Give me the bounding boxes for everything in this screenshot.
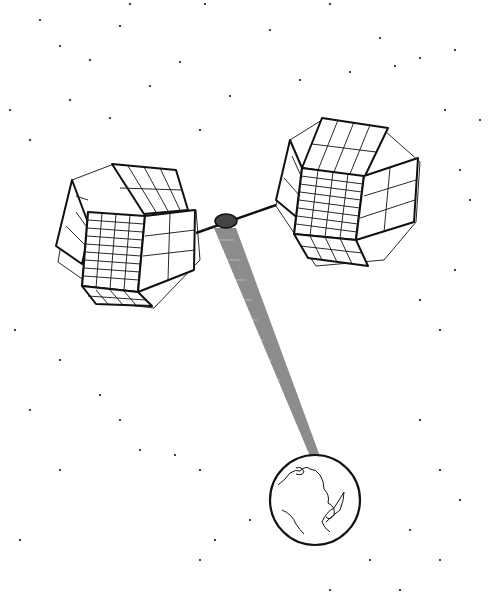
star [59, 45, 61, 47]
star [89, 59, 91, 61]
star [199, 469, 201, 471]
star [399, 589, 401, 591]
star [469, 199, 471, 201]
star [14, 329, 16, 331]
star [459, 499, 461, 501]
star [329, 3, 331, 5]
star [249, 519, 251, 521]
star [439, 329, 441, 331]
star [149, 85, 151, 87]
star [119, 419, 121, 421]
star [459, 169, 461, 171]
star [109, 117, 111, 119]
star [214, 539, 216, 541]
star [69, 99, 71, 101]
star [29, 409, 31, 411]
star [439, 469, 441, 471]
star [454, 269, 456, 271]
star [199, 129, 201, 131]
star [229, 95, 231, 97]
star [269, 29, 271, 31]
star [369, 559, 371, 561]
star [419, 419, 421, 421]
star [59, 469, 61, 471]
star [29, 139, 31, 141]
earth-globe [270, 455, 360, 545]
star [129, 3, 131, 5]
left-solar-array [56, 164, 200, 308]
star [349, 71, 351, 73]
star [444, 109, 446, 111]
star [59, 359, 61, 361]
star [174, 454, 176, 456]
satellite-hub [215, 214, 237, 228]
star [179, 61, 181, 63]
star [99, 394, 101, 396]
star [9, 109, 11, 111]
star [409, 529, 411, 531]
star [479, 119, 481, 121]
star [419, 57, 421, 59]
star [299, 79, 301, 81]
star [204, 3, 206, 5]
star [139, 449, 141, 451]
star [119, 25, 121, 27]
star [454, 49, 456, 51]
star [329, 589, 331, 591]
star [199, 559, 201, 561]
satellite-illustration [0, 0, 493, 596]
star [439, 559, 441, 561]
star [39, 19, 41, 21]
right-solar-array [276, 118, 420, 266]
star [419, 299, 421, 301]
star [379, 37, 381, 39]
energy-beam [214, 228, 328, 480]
star [394, 65, 396, 67]
star [19, 539, 21, 541]
